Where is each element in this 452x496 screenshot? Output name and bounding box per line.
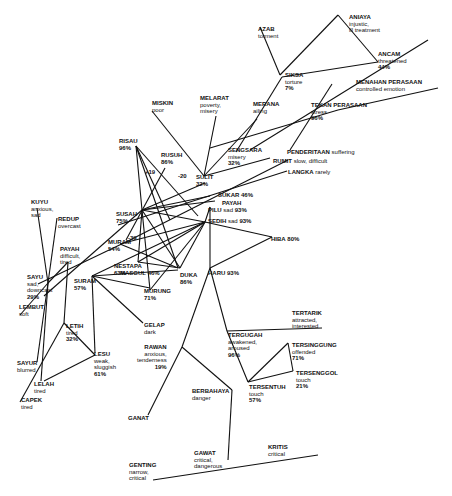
- node-gloss: stress: [311, 109, 367, 116]
- edge: [44, 355, 95, 381]
- node-word: RISAU: [119, 138, 138, 145]
- node-word: BERBAHAYA: [192, 388, 229, 395]
- node-lesu: LESUweak, sluggish61%: [94, 351, 116, 377]
- node-percent: 96%: [119, 145, 138, 152]
- node-word: LANGKA: [288, 169, 314, 175]
- node-kuyu: KUYUanxious, sad: [31, 199, 53, 219]
- node-word: KUYU: [31, 199, 53, 206]
- node-percent: 19%: [137, 364, 167, 371]
- node-haru: HARU 93%: [208, 270, 239, 277]
- node-percent: 86%: [180, 279, 197, 286]
- node-gloss: torture: [285, 79, 303, 86]
- edge: [153, 455, 318, 480]
- node-azab: AZABtorment: [258, 26, 278, 39]
- node-sukar: SUKAR 46%: [218, 192, 253, 199]
- node-word: SUSAH: [116, 211, 137, 218]
- node-word: PAYAH: [60, 246, 80, 253]
- node-suram: SURAM57%: [74, 278, 96, 291]
- node-rusuh: RUSUH86%: [161, 152, 182, 165]
- node-word: SULIT: [196, 174, 213, 181]
- node-sulit: SULIT32%: [196, 174, 213, 187]
- node-word: TERGUGAH: [228, 332, 262, 339]
- node-percent: 71%: [292, 355, 337, 362]
- edge-weight-label: -20: [178, 173, 187, 179]
- node-percent: 32%: [228, 160, 262, 167]
- node-word: LELAH: [34, 381, 54, 388]
- node-word: TERSENGGOL: [296, 370, 338, 377]
- node-word: PILU: [208, 207, 222, 213]
- node-word: SUKAR: [218, 192, 239, 198]
- node-gloss: touch: [249, 391, 286, 398]
- edge: [126, 168, 165, 240]
- node-word: RUSUH: [161, 152, 182, 159]
- node-gelap: GELAPdark: [144, 322, 165, 335]
- node-percent: 93%: [239, 218, 251, 224]
- node-gloss: threatened: [378, 58, 407, 65]
- node-lembut: LEMBUTsoft: [19, 304, 44, 317]
- node-gawat: GAWATcritical, dangerous: [194, 450, 222, 470]
- node-sayur: SAYURblurred: [17, 360, 37, 373]
- node-word: TEKAN PERASAAN: [311, 102, 367, 109]
- node-word: RAWAN: [137, 344, 167, 351]
- node-letih: LETIHtired32%: [66, 323, 83, 343]
- edge-weight-label: +19: [145, 169, 155, 175]
- node-tertarik: TERTARIKattracted, interested: [292, 310, 322, 330]
- node-gloss: tired: [21, 404, 42, 411]
- node-gloss: touch: [296, 377, 338, 384]
- node-percent: 44%: [378, 64, 407, 71]
- node-pilu: PILU sad 93%: [208, 207, 247, 214]
- node-gloss: slow, difficult: [294, 158, 328, 164]
- node-langka: LANGKA rarely: [288, 169, 330, 176]
- node-risau: RISAU96%: [119, 138, 138, 151]
- node-percent: 7%: [285, 85, 303, 92]
- edge: [37, 208, 48, 283]
- node-word: MELARAT: [200, 95, 229, 102]
- node-gloss: poverty, misery: [200, 102, 229, 115]
- node-tersenggol: TERSENGGOLtouch21%: [296, 370, 338, 390]
- node-percent: 93%: [227, 270, 239, 276]
- edge: [248, 371, 293, 382]
- node-word: SIKSA: [285, 72, 303, 79]
- node-percent: 86%: [161, 159, 182, 166]
- node-word: TERSINGGUNG: [292, 342, 337, 349]
- node-kritis: KRITIScritical: [268, 444, 288, 457]
- edge: [92, 276, 143, 323]
- node-percent: 75%: [116, 218, 137, 225]
- node-word: PENDERITAAN: [287, 149, 330, 155]
- edge: [142, 210, 205, 222]
- node-word: MERANA: [253, 101, 279, 108]
- node-word: GAWAT: [194, 450, 222, 457]
- node-word: GENTING: [129, 462, 156, 469]
- node-gloss: narrow, critical: [129, 469, 156, 482]
- node-redup: REDUPovercast: [58, 216, 81, 229]
- node-merana: MERANAailing: [253, 101, 279, 114]
- node-word: DUKA: [180, 272, 197, 279]
- node-word: LETIH: [66, 323, 83, 330]
- node-word: SEDIH: [208, 218, 226, 224]
- node-word: SAYUR: [17, 360, 37, 367]
- node-siksa: SIKSAtorture7%: [285, 72, 303, 92]
- node-word: LEMBUT: [19, 304, 44, 311]
- node-word: ANCAM: [378, 51, 407, 58]
- node-word: ANIAYA: [349, 14, 380, 21]
- node-word: REDUP: [58, 216, 81, 223]
- node-percent: 32%: [66, 336, 83, 343]
- node-hiba: HIBA 80%: [271, 236, 299, 243]
- node-word: TERTARIK: [292, 310, 322, 317]
- node-percent: 96%: [228, 352, 262, 359]
- node-sengsara: SENGSARAmisery32%: [228, 147, 262, 167]
- node-melarat: MELARATpoverty, misery: [200, 95, 229, 115]
- node-gloss: misery: [228, 154, 262, 161]
- node-percent: 80%: [287, 236, 299, 242]
- node-gloss: critical, dangerous: [194, 457, 222, 470]
- edge: [182, 347, 232, 390]
- node-percent: 46%: [148, 270, 160, 276]
- edge: [210, 268, 227, 331]
- edge: [152, 111, 204, 176]
- node-word: HARU: [208, 270, 225, 276]
- node-word: TERSENTUH: [249, 384, 286, 391]
- node-gloss: rarely: [315, 169, 330, 175]
- node-ganat: GANAT: [128, 415, 149, 422]
- node-gloss: injustic, ill treatment: [349, 21, 380, 34]
- node-susah: SUSAH75%: [116, 211, 137, 224]
